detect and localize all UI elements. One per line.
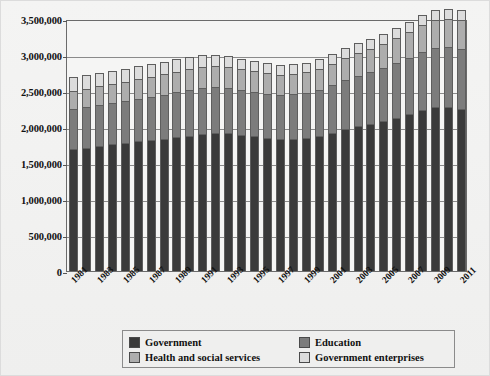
bar-segment — [354, 126, 363, 271]
y-axis-tick-label: 1,500,000 — [21, 159, 62, 170]
bar-segment — [134, 66, 143, 79]
legend-item[interactable]: Health and social services — [129, 352, 299, 363]
bar-segment — [431, 107, 440, 271]
bar-stack — [315, 59, 324, 271]
bar-segment — [289, 139, 298, 271]
bar-segment — [108, 144, 117, 271]
bar-segment — [289, 94, 298, 138]
bar-segment — [121, 82, 130, 101]
bar-segment — [263, 63, 272, 73]
bar-segment — [315, 59, 324, 69]
bar-segment — [95, 146, 104, 271]
bar-stack — [224, 56, 233, 271]
bar-segment — [69, 91, 78, 109]
bar-segment — [108, 84, 117, 103]
y-tick-mark — [63, 273, 67, 274]
bar-stack — [418, 15, 427, 271]
bar-segment — [108, 103, 117, 144]
legend-swatch-icon — [129, 352, 140, 363]
bar-segment — [198, 67, 207, 89]
bar-segment — [444, 9, 453, 19]
bar-segment — [82, 107, 91, 148]
bar-segment — [250, 71, 259, 92]
bar-segment — [289, 64, 298, 74]
bar-segment — [457, 49, 466, 109]
bar-segment — [315, 90, 324, 136]
legend-label: Government enterprises — [315, 352, 424, 363]
bar-segment — [392, 28, 401, 38]
bar-segment — [147, 97, 156, 140]
bar-segment — [341, 80, 350, 129]
y-axis-tick-label: 2,500,000 — [21, 87, 62, 98]
bar-segment — [366, 49, 375, 73]
bar-segment — [250, 61, 259, 71]
bar-segment — [366, 72, 375, 124]
chart-legend: GovernmentEducationHealth and social ser… — [122, 330, 455, 368]
bar-segment — [172, 137, 181, 271]
bar-segment — [341, 129, 350, 271]
bar-segment — [263, 94, 272, 138]
bar-stack — [405, 22, 414, 271]
bar-segment — [354, 76, 363, 126]
bar-segment — [379, 121, 388, 271]
bar-segment — [405, 22, 414, 32]
bar-segment — [82, 75, 91, 89]
bar-stack — [172, 59, 181, 271]
bar-segment — [379, 34, 388, 44]
bar-segment — [172, 59, 181, 71]
bar-segment — [147, 140, 156, 271]
bar-segment — [366, 124, 375, 271]
bar-segment — [276, 65, 285, 75]
bar-segment — [211, 133, 220, 271]
bar-segment — [276, 75, 285, 95]
bar-stack — [444, 9, 453, 271]
bar-segment — [405, 32, 414, 58]
bar-segment — [418, 15, 427, 25]
bar-segment — [198, 134, 207, 271]
bar-segment — [354, 43, 363, 53]
bar-segment — [82, 148, 91, 271]
bar-segment — [444, 107, 453, 271]
legend-item[interactable]: Government enterprises — [299, 352, 448, 363]
bar-segment — [302, 63, 311, 73]
bar-stack — [108, 71, 117, 272]
bar-segment — [198, 55, 207, 67]
bar-segment — [237, 69, 246, 90]
bar-segment — [444, 47, 453, 107]
bar-segment — [224, 56, 233, 67]
bar-segment — [392, 38, 401, 63]
y-axis-tick-label: 1,000,000 — [21, 195, 62, 206]
bar-segment — [69, 109, 78, 149]
y-axis-labels: 0500,0001,000,0001,500,0002,000,0002,500… — [0, 0, 62, 292]
bar-series-group — [67, 21, 466, 271]
bar-segment — [315, 136, 324, 271]
chart-page: 0500,0001,000,0001,500,0002,000,0002,500… — [0, 0, 490, 376]
bar-segment — [211, 66, 220, 88]
bar-segment — [289, 74, 298, 94]
bar-segment — [276, 95, 285, 139]
bar-stack — [457, 10, 466, 271]
legend-swatch-icon — [299, 337, 310, 348]
bar-segment — [185, 90, 194, 135]
bar-stack — [160, 62, 169, 271]
bar-segment — [237, 90, 246, 135]
bar-segment — [379, 68, 388, 121]
x-axis-labels: 1981198319851987198919911993199519971999… — [0, 276, 490, 320]
bar-segment — [95, 86, 104, 105]
legend-item[interactable]: Education — [299, 337, 448, 348]
bar-segment — [185, 69, 194, 90]
bar-stack — [276, 65, 285, 271]
legend-item[interactable]: Government — [129, 337, 299, 348]
bar-stack — [250, 61, 259, 271]
bar-segment — [418, 25, 427, 52]
bar-stack — [237, 59, 246, 271]
bar-segment — [160, 95, 169, 139]
legend-swatch-icon — [129, 337, 140, 348]
legend-label: Education — [315, 337, 361, 348]
bar-stack — [185, 57, 194, 271]
bar-segment — [328, 54, 337, 64]
legend-label: Health and social services — [145, 352, 260, 363]
bar-segment — [211, 55, 220, 66]
bar-segment — [147, 77, 156, 97]
bar-segment — [185, 57, 194, 69]
